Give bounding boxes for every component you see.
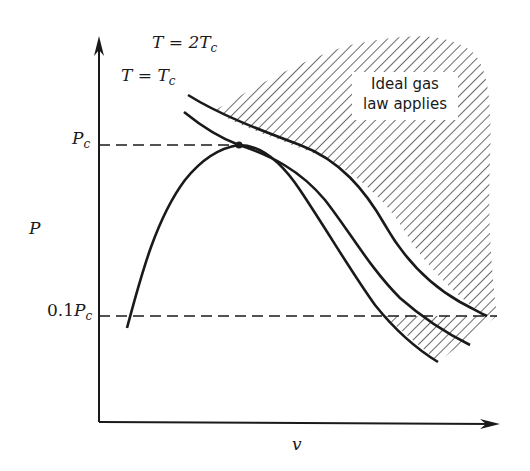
isotherm-2tc-label: T = 2Tc [152,32,217,55]
pv-diagram: T = 2Tc T = Tc Pc 0.1Pc P v Ideal gas la… [0,0,530,471]
annotation-line-2: law applies [357,94,453,114]
x-axis [99,422,492,424]
y-axis-label: P [29,218,40,238]
ideal-gas-annotation: Ideal gas law applies [354,74,456,114]
x-axis-label: v [292,434,302,454]
tenth-critical-pressure-label: 0.1Pc [47,300,92,323]
critical-point-marker [236,142,243,149]
isotherm-tc-label: T = Tc [121,65,175,88]
low-pressure-hatched-region [385,316,497,362]
annotation-line-1: Ideal gas [357,74,453,94]
diagram-canvas [0,0,530,471]
critical-pressure-label: Pc [72,128,90,151]
